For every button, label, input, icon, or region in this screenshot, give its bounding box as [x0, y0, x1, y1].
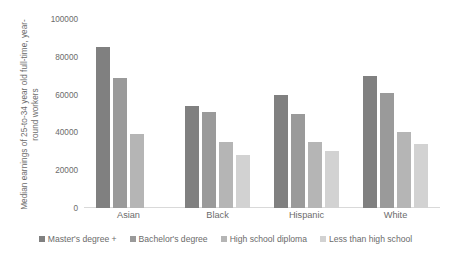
- x-axis-label-hispanic: Hispanic: [262, 210, 351, 220]
- bar[interactable]: [308, 142, 322, 208]
- chart-legend: Master's degree +Bachelor's degreeHigh s…: [0, 234, 451, 244]
- bar-group-black: [173, 19, 262, 208]
- y-axis-tick-label: 60000: [55, 90, 78, 99]
- bar-group-asian: [84, 19, 173, 208]
- bar-chart: Median earnings of 25-to-34 year old ful…: [0, 0, 451, 255]
- legend-item[interactable]: Master's degree +: [39, 234, 117, 244]
- legend-swatch-icon: [320, 236, 326, 242]
- y-axis-tick-label: 100000: [51, 15, 78, 24]
- bar[interactable]: [130, 134, 144, 208]
- legend-item[interactable]: High school diploma: [221, 234, 307, 244]
- y-axis-tick-label: 0: [73, 204, 78, 213]
- y-axis-tick-label: 40000: [55, 128, 78, 137]
- bar[interactable]: [397, 132, 411, 208]
- x-axis-label-white: White: [351, 210, 440, 220]
- plot-area: 020000400006000080000100000: [84, 19, 440, 208]
- legend-label: Bachelor's degree: [139, 234, 208, 244]
- bar[interactable]: [274, 95, 288, 208]
- bar[interactable]: [414, 144, 428, 208]
- y-axis-tick-label: 80000: [55, 52, 78, 61]
- x-axis-label-asian: Asian: [84, 210, 173, 220]
- bar-groups: [84, 19, 440, 208]
- bar-group-hispanic: [262, 19, 351, 208]
- bar[interactable]: [236, 155, 250, 208]
- bar[interactable]: [96, 47, 110, 208]
- x-axis-category-labels: AsianBlackHispanicWhite: [84, 210, 440, 220]
- bar[interactable]: [325, 151, 339, 208]
- bar[interactable]: [113, 78, 127, 208]
- bar[interactable]: [291, 114, 305, 209]
- bar[interactable]: [185, 106, 199, 208]
- bar-group-white: [351, 19, 440, 208]
- legend-swatch-icon: [130, 236, 136, 242]
- legend-item[interactable]: Bachelor's degree: [130, 234, 208, 244]
- legend-swatch-icon: [39, 236, 45, 242]
- legend-label: Master's degree +: [48, 234, 117, 244]
- legend-swatch-icon: [221, 236, 227, 242]
- bar[interactable]: [219, 142, 233, 208]
- bar[interactable]: [363, 76, 377, 208]
- bar[interactable]: [380, 93, 394, 208]
- legend-label: Less than high school: [329, 234, 412, 244]
- legend-label: High school diploma: [230, 234, 307, 244]
- y-axis-title: Median earnings of 25-to-34 year old ful…: [20, 15, 41, 215]
- bar[interactable]: [202, 112, 216, 208]
- x-axis-label-black: Black: [173, 210, 262, 220]
- legend-item[interactable]: Less than high school: [320, 234, 412, 244]
- y-axis-tick-label: 20000: [55, 166, 78, 175]
